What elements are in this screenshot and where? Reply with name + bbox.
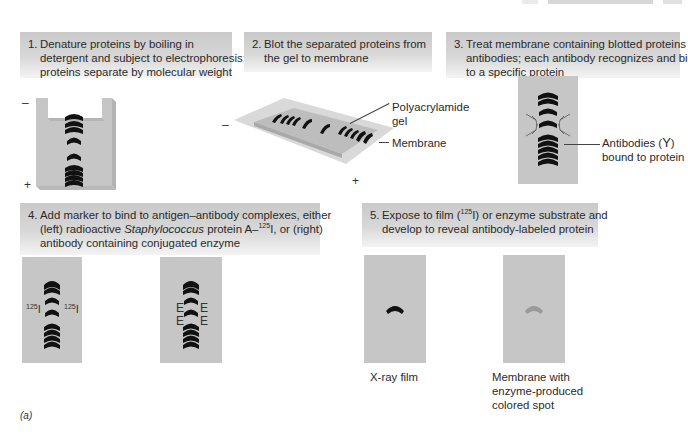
anode-plus-sign: + bbox=[352, 174, 359, 188]
xray-film-band bbox=[364, 255, 426, 363]
polyacrylamide-gel-label: Polyacrylamide bbox=[392, 100, 469, 114]
step-3-caption: 3.Treat membrane containing blotted prot… bbox=[446, 32, 680, 78]
cathode-minus-sign: – bbox=[22, 96, 29, 110]
enzyme-marker-right-top: E bbox=[200, 301, 208, 315]
step-number: 1. bbox=[28, 37, 40, 51]
step-number: 5. bbox=[370, 208, 382, 222]
polyacrylamide-gel-label-2: gel bbox=[392, 114, 407, 128]
antibodies-label: Antibodies (Y) bbox=[602, 136, 675, 150]
enzyme-marker-left-bottom: E bbox=[176, 314, 184, 328]
membrane-colored-spot-label-3: colored spot bbox=[492, 398, 554, 412]
bound-to-protein-label: bound to protein bbox=[602, 150, 684, 164]
anode-plus-sign: + bbox=[24, 178, 31, 192]
step-2-caption: 2.Blot the separated proteins from the g… bbox=[244, 32, 432, 72]
enzyme-marker-right-bottom: E bbox=[200, 314, 208, 328]
step-1-caption: 1.Denature proteins by boiling in deterg… bbox=[20, 32, 232, 78]
membrane-leader-line bbox=[379, 142, 389, 143]
xray-film-label: X-ray film bbox=[370, 370, 418, 384]
step-number: 4. bbox=[28, 208, 40, 222]
step-number: 2. bbox=[252, 37, 264, 51]
antibody-bound-bands bbox=[518, 76, 578, 184]
antibody-leader-line bbox=[564, 144, 600, 145]
enzyme-marker-left-top: E bbox=[176, 301, 184, 315]
antibody-y-icon: Y bbox=[662, 135, 671, 150]
membrane-colored-spot-label-1: Membrane with bbox=[492, 370, 570, 384]
enzyme-labeled-bands bbox=[160, 257, 222, 363]
page-header-fragment bbox=[522, 0, 682, 4]
figure-part-label: (a) bbox=[20, 410, 32, 421]
step-5-caption: 5.Expose to film (125I) or enzyme substr… bbox=[362, 203, 598, 247]
colored-spot bbox=[503, 255, 565, 363]
iodine-125-right-marker: 125I bbox=[64, 303, 79, 315]
step-4-caption: 4.Add marker to bind to antigen–antibody… bbox=[20, 203, 320, 255]
gel-membrane-blot bbox=[226, 92, 396, 172]
membrane-colored-spot-label-2: enzyme-produced bbox=[492, 384, 583, 398]
electrophoresis-gel bbox=[34, 96, 118, 192]
step-number: 3. bbox=[454, 37, 466, 51]
iodine-125-left-marker: 125I bbox=[26, 303, 41, 315]
membrane-label: Membrane bbox=[392, 136, 446, 150]
